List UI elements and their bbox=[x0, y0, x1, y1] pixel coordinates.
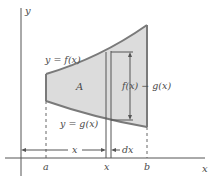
arrowhead-left-icon bbox=[21, 148, 26, 152]
height-label: f(x) − g(x) bbox=[121, 80, 171, 91]
tick-a-label: a bbox=[43, 161, 49, 172]
dx-label: dx bbox=[122, 144, 134, 155]
region-a bbox=[46, 25, 147, 127]
arrowhead-dx-icon bbox=[111, 148, 116, 152]
curve-g-label: y = g(x) bbox=[59, 118, 99, 129]
curve-f-label: y = f(x) bbox=[44, 54, 81, 65]
arrowhead-right-icon bbox=[101, 148, 106, 152]
x-axis-label: x bbox=[202, 163, 208, 174]
y-axis-label: y bbox=[24, 5, 31, 16]
distance-label: x bbox=[72, 144, 78, 155]
area-between-curves-diagram: y x y = f(x) y = g(x) A f(x) − g(x) dx x… bbox=[0, 0, 217, 179]
tick-b-label: b bbox=[144, 161, 150, 172]
region-label: A bbox=[75, 81, 83, 92]
tick-x-label: x bbox=[104, 161, 110, 172]
